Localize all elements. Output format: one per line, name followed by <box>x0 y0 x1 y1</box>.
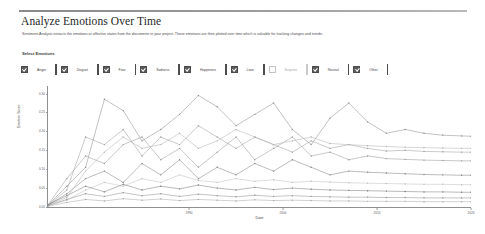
chart-point <box>386 150 387 151</box>
emotion-label: Sadness <box>156 68 169 72</box>
chart-point <box>235 125 236 126</box>
emotion-toggle-fear[interactable]: Fear <box>103 63 126 76</box>
chart-point <box>386 197 387 198</box>
checkbox-sadness-icon[interactable] <box>140 66 147 73</box>
chart-point <box>470 160 471 161</box>
emotion-analysis-page: Analyze Emotions Over Time Sentiment Ana… <box>0 0 485 234</box>
chart-point <box>216 106 217 107</box>
checkbox-neutral-icon[interactable] <box>312 66 319 73</box>
y-tick-label: 0.25 <box>39 110 45 114</box>
chart-point <box>367 155 368 156</box>
chart-point <box>442 147 443 148</box>
chart-point <box>122 184 123 185</box>
chart-point <box>216 167 217 168</box>
chart-point <box>273 144 274 145</box>
chart-point <box>386 133 387 134</box>
chart-point <box>404 150 405 151</box>
emotion-toggle-happiness[interactable]: Happiness <box>184 63 216 76</box>
chart-point <box>404 191 405 192</box>
chart-point <box>292 151 293 152</box>
chart-lines <box>48 86 471 207</box>
chart-point <box>423 174 424 175</box>
chart-point <box>85 193 86 194</box>
chart-point <box>104 163 105 164</box>
chart-point <box>160 182 161 183</box>
chart-point <box>141 148 142 149</box>
chart-point <box>423 197 424 198</box>
chart-point <box>348 196 349 197</box>
chart-point <box>273 196 274 197</box>
chart-point <box>179 144 180 145</box>
chart-point <box>423 133 424 134</box>
chart-point <box>141 136 142 137</box>
emotion-divider <box>225 64 227 75</box>
chart-point <box>216 140 217 141</box>
emotion-toggle-sadness[interactable]: Sadness <box>140 63 169 76</box>
chart-point <box>179 200 180 201</box>
chart-point <box>367 182 368 183</box>
emotion-toggle-love[interactable]: Love <box>231 63 254 76</box>
chart-point <box>461 160 462 161</box>
checkbox-other-icon[interactable] <box>353 66 360 73</box>
chart-point <box>66 189 67 190</box>
chart-point <box>329 200 330 201</box>
chart-point <box>310 196 311 197</box>
checkbox-happiness-icon[interactable] <box>184 66 191 73</box>
chart-point <box>104 200 105 201</box>
emotion-toggle-other[interactable]: Other <box>353 63 377 76</box>
emotion-filter-bar: AngerDisgustFearSadnessHappinessLoveSurp… <box>21 63 421 76</box>
chart-point <box>386 201 387 202</box>
chart-point <box>254 195 255 196</box>
chart-point <box>198 148 199 149</box>
checkbox-disgust-icon[interactable] <box>61 66 68 73</box>
chart-point <box>179 114 180 115</box>
chart-point <box>179 188 180 189</box>
chart-point <box>273 200 274 201</box>
chart-point <box>235 200 236 201</box>
chart-point <box>254 181 255 182</box>
checkbox-love-icon[interactable] <box>231 66 238 73</box>
chart-point <box>122 192 123 193</box>
chart-point <box>254 163 255 164</box>
chart-point <box>216 187 217 188</box>
chart-point <box>85 136 86 137</box>
chart-point <box>470 197 471 198</box>
chart-point <box>386 190 387 191</box>
chart-point <box>310 189 311 190</box>
emotion-divider <box>97 64 99 75</box>
emotion-toggle-surprise[interactable]: Surprise <box>269 63 298 76</box>
chart-line-other <box>48 193 471 206</box>
x-tick-label: 2020 <box>468 211 475 215</box>
emotion-toggle-neutral[interactable]: Neutral <box>312 63 339 76</box>
chart-point <box>404 201 405 202</box>
emotion-toggle-disgust[interactable]: Disgust <box>61 63 88 76</box>
chart-point <box>85 155 86 156</box>
checkbox-fear-icon[interactable] <box>103 66 110 73</box>
chart-point <box>160 129 161 130</box>
chart-point <box>470 184 471 185</box>
chart-point <box>235 136 236 137</box>
chart-point <box>367 196 368 197</box>
emotion-toggle-anger[interactable]: Anger <box>21 63 46 76</box>
chart-point <box>104 99 105 100</box>
chart-point <box>348 102 349 103</box>
chart-point <box>367 172 368 173</box>
checkbox-anger-icon[interactable] <box>21 66 28 73</box>
y-tick-label: 0.00 <box>39 205 45 209</box>
chart-point <box>310 140 311 141</box>
checkbox-surprise-icon[interactable] <box>269 66 276 73</box>
chart-point <box>442 201 443 202</box>
chart-point <box>310 136 311 137</box>
chart-line-happiness <box>48 129 471 205</box>
emotion-timeline-chart: Emotion Score 0.300.250.200.150.100.050.… <box>19 86 471 228</box>
chart-point <box>423 201 424 202</box>
chart-point <box>310 200 311 201</box>
chart-point <box>160 186 161 187</box>
chart-point <box>198 167 199 168</box>
chart-point <box>160 193 161 194</box>
chart-point <box>292 199 293 200</box>
chart-point <box>442 151 443 152</box>
chart-point <box>348 170 349 171</box>
chart-point <box>461 201 462 202</box>
chart-point <box>329 189 330 190</box>
